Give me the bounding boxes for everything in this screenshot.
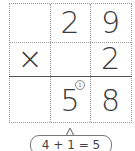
- multiply-sign: ×: [10, 42, 50, 76]
- result-c1: [10, 76, 50, 122]
- callout-text: 4 + 1 = 5: [42, 138, 100, 151]
- result-c3: 8: [90, 80, 131, 122]
- cell-r1-c2: 2: [50, 4, 90, 42]
- cell-r2-c3: 2: [90, 42, 131, 76]
- multiplication-grid: 2 9 × 2 5 8 1: [9, 3, 132, 123]
- cell-r1-c1: [10, 4, 50, 42]
- callout-bubble: 4 + 1 = 5: [30, 135, 112, 151]
- cell-r1-c3: 9: [90, 4, 131, 42]
- carry-digit: 1: [75, 80, 85, 90]
- cell-r2-c2: [50, 42, 90, 76]
